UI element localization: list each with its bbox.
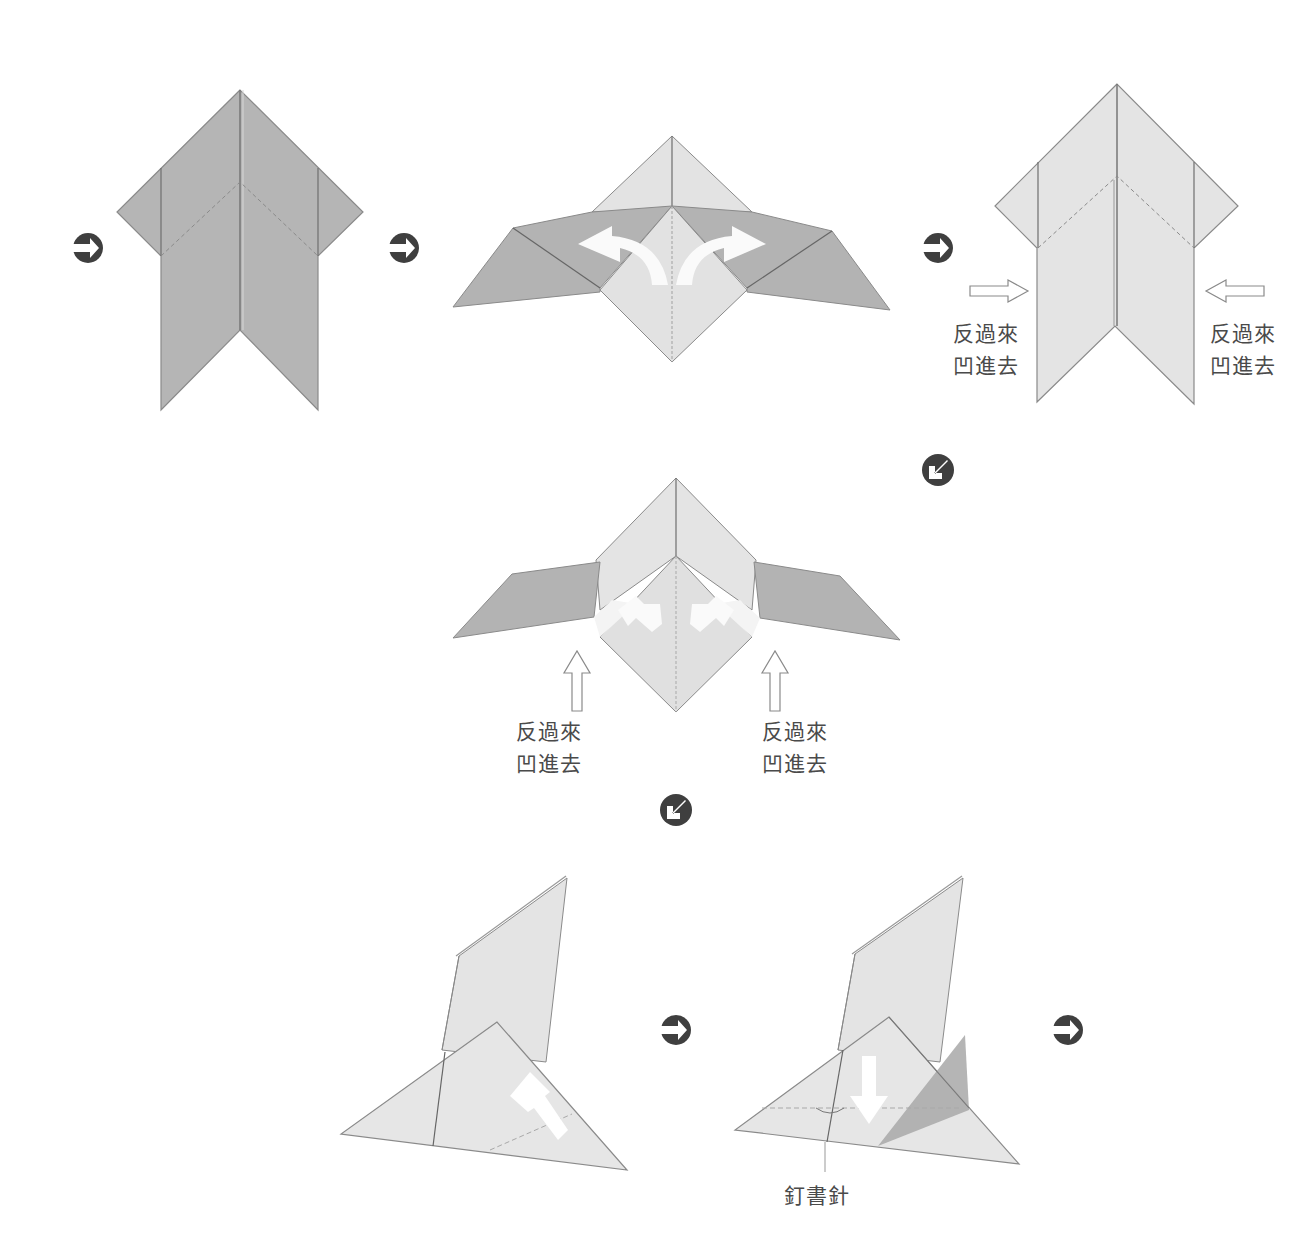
step6-figure [735,876,1019,1172]
step3-right-label: 反過來 凹進去 [1210,318,1276,382]
step-arrow-right-icon [389,233,419,263]
staple-label: 釘書針 [784,1180,850,1212]
step2-figure [453,136,890,362]
label-line1: 反過來 [762,716,828,748]
step-arrow-right-icon [1053,1015,1083,1045]
step-arrow-right-icon [661,1015,691,1045]
step4-figure [453,478,900,712]
step4-right-label: 反過來 凹進去 [762,716,828,780]
step-arrow-down-left-icon [660,794,692,826]
label-line1: 反過來 [953,318,1019,350]
step3-left-label: 反過來 凹進去 [953,318,1019,382]
label-line2: 凹進去 [516,748,582,780]
label-line2: 凹進去 [1210,350,1276,382]
origami-diagram [0,0,1312,1243]
step5-figure [341,876,627,1170]
label-line2: 凹進去 [762,748,828,780]
step-arrow-right-icon [73,233,103,263]
step1-figure [117,90,363,410]
label-line2: 凹進去 [953,350,1019,382]
staple-text: 釘書針 [784,1180,850,1212]
label-line1: 反過來 [1210,318,1276,350]
step-arrow-down-left-icon [922,454,954,486]
step4-left-label: 反過來 凹進去 [516,716,582,780]
step-arrow-right-icon [923,233,953,263]
label-line1: 反過來 [516,716,582,748]
